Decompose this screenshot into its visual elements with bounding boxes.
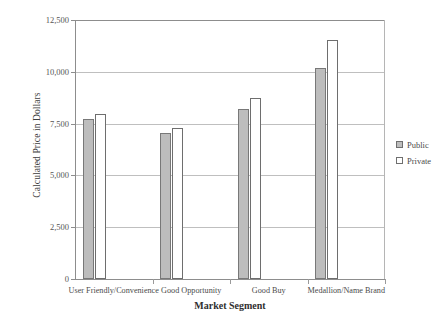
- x-category-label: User Friendly/Convenience: [69, 286, 159, 295]
- y-tick-label: 12,500: [46, 15, 69, 25]
- bar-private: [327, 40, 338, 279]
- bar-public: [160, 133, 171, 279]
- x-category-label: Medallion/Name Brand: [307, 286, 385, 295]
- bar-private: [172, 128, 183, 279]
- plot-area: 02,5005,0007,50010,00012,500 User Friend…: [75, 20, 385, 280]
- bar-private: [250, 98, 261, 279]
- legend-label: Private: [407, 156, 431, 166]
- gridline-2500: [75, 227, 385, 228]
- x-category-label: Good Buy: [252, 286, 286, 295]
- x-tick-mark: [385, 279, 386, 284]
- legend-label: Public: [407, 140, 429, 150]
- gridline-10000: [75, 72, 385, 73]
- bar-public: [83, 119, 94, 279]
- y-tick-label: 10,000: [46, 67, 69, 77]
- chart-legend: PublicPrivate: [396, 140, 446, 172]
- y-tick-label: 2,500: [50, 222, 69, 232]
- legend-item-public[interactable]: Public: [396, 140, 446, 149]
- gridline-12500: [75, 20, 385, 21]
- x-tick-mark: [153, 279, 154, 284]
- bar-chart: Calculated Price in Dollars 02,5005,0007…: [0, 0, 448, 326]
- x-category-label: Good Opportunity: [161, 286, 221, 295]
- y-tick-label: 5,000: [50, 170, 69, 180]
- x-axis-title: Market Segment: [75, 300, 385, 311]
- plot-right-border: [384, 20, 385, 280]
- legend-swatch-public-icon: [396, 141, 403, 148]
- bar-private: [95, 114, 106, 279]
- y-tick-label: 7,500: [50, 119, 69, 129]
- legend-swatch-private-icon: [396, 157, 403, 164]
- gridline-5000: [75, 175, 385, 176]
- legend-item-private[interactable]: Private: [396, 156, 446, 165]
- bar-public: [238, 109, 249, 279]
- x-tick-mark: [230, 279, 231, 284]
- bar-public: [315, 68, 326, 279]
- y-axis-line: [75, 20, 76, 280]
- gridline-7500: [75, 124, 385, 125]
- y-tick-label: 0: [65, 274, 69, 284]
- y-axis-title: Calculated Price in Dollars: [32, 45, 42, 245]
- x-tick-mark: [308, 279, 309, 284]
